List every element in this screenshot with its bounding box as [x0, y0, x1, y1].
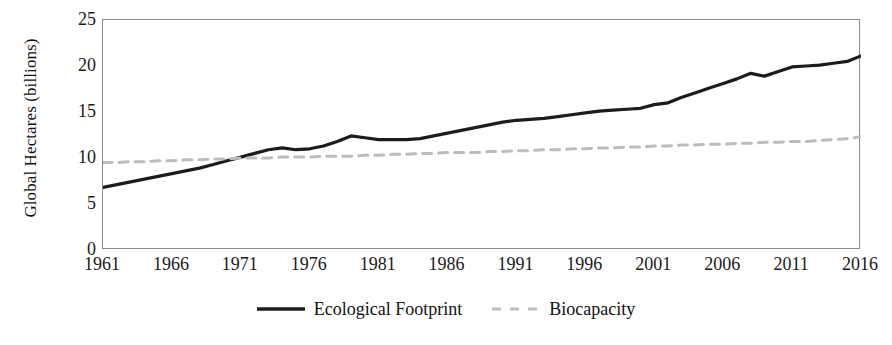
x-tick-label: 1976 — [274, 255, 344, 273]
x-tick-label: 2011 — [756, 255, 826, 273]
x-tick-label: 1961 — [67, 255, 137, 273]
y-tick-label: 10 — [66, 148, 96, 166]
x-tick-label: 1971 — [205, 255, 275, 273]
y-axis-tick-labels: 2520151050 — [60, 0, 96, 345]
legend-label: Ecological Footprint — [314, 300, 462, 318]
legend-item[interactable]: Ecological Footprint — [257, 300, 462, 318]
y-tick-label: 15 — [66, 102, 96, 120]
x-tick-label: 2006 — [687, 255, 757, 273]
x-axis-tick-labels: 1961196619711976198119861991199620012006… — [0, 255, 892, 281]
legend-label: Biocapacity — [549, 300, 635, 318]
y-axis-title: Global Hectares (billions) — [21, 3, 41, 253]
x-tick-label: 1986 — [412, 255, 482, 273]
chart-container: Global Hectares (billions) 2520151050 19… — [0, 0, 892, 345]
legend-solid-line-icon — [257, 302, 305, 316]
chart-legend: Ecological FootprintBiocapacity — [0, 300, 892, 318]
series-line — [103, 56, 861, 188]
plot-area — [102, 19, 860, 249]
x-tick-label: 2001 — [618, 255, 688, 273]
x-tick-label: 2016 — [825, 255, 892, 273]
legend-item[interactable]: Biocapacity — [492, 300, 635, 318]
y-tick-label: 5 — [66, 194, 96, 212]
line-chart-svg — [103, 20, 861, 250]
x-tick-label: 1966 — [136, 255, 206, 273]
series-line — [103, 137, 861, 163]
y-tick-label: 25 — [66, 10, 96, 28]
y-tick-label: 20 — [66, 56, 96, 74]
x-tick-label: 1996 — [549, 255, 619, 273]
x-tick-label: 1981 — [343, 255, 413, 273]
x-tick-label: 1991 — [480, 255, 550, 273]
legend-dashed-line-icon — [492, 302, 540, 316]
